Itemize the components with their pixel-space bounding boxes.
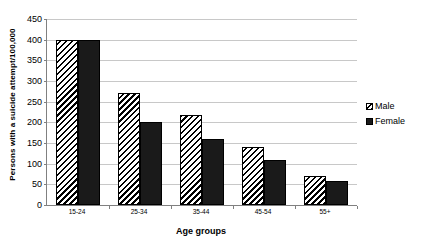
y-tick-label: 100 <box>16 159 42 168</box>
bar-male-15-24 <box>56 40 78 205</box>
bar-group <box>118 19 162 205</box>
y-tick-label: 200 <box>16 118 42 127</box>
solid-black-swatch-icon <box>366 118 373 125</box>
chart-legend: MaleFemale <box>366 101 428 131</box>
bar-female-35-44 <box>202 139 224 205</box>
bar-female-15-24 <box>78 40 100 205</box>
bar-female-45-54 <box>264 160 286 205</box>
bar-chart: Persons with a suicide attempt/100,000 0… <box>0 0 430 251</box>
x-tick-label: 55+ <box>319 208 330 216</box>
x-axis-tick-labels: 15-2425-3435-4445-5455+ <box>46 208 356 222</box>
x-axis-tick <box>357 206 358 209</box>
bars-layer <box>47 19 357 205</box>
x-tick-label: 35-44 <box>193 208 210 216</box>
x-tick-label: 15-24 <box>69 208 86 216</box>
y-axis-tick <box>44 205 47 206</box>
bar-male-55+ <box>304 176 326 205</box>
legend-item-female: Female <box>366 116 428 126</box>
y-tick-label: 50 <box>16 180 42 189</box>
legend-item-male: Male <box>366 101 428 111</box>
legend-label: Male <box>375 102 395 111</box>
y-tick-label: 0 <box>16 201 42 210</box>
y-axis-tick-labels: 050100150200250300350400450 <box>16 13 42 211</box>
bar-female-55+ <box>326 181 348 205</box>
hatched-swatch-icon <box>366 103 373 110</box>
y-tick-label: 250 <box>16 97 42 106</box>
y-tick-label: 400 <box>16 35 42 44</box>
bar-group <box>242 19 286 205</box>
legend-label: Female <box>375 117 405 126</box>
bar-male-45-54 <box>242 147 264 205</box>
y-tick-label: 150 <box>16 139 42 148</box>
bar-group <box>56 19 100 205</box>
y-tick-label: 300 <box>16 77 42 86</box>
x-axis-title: Age groups <box>46 226 356 236</box>
bar-male-25-34 <box>118 93 140 205</box>
bar-group <box>304 19 348 205</box>
bar-male-35-44 <box>180 115 202 205</box>
y-tick-label: 450 <box>16 15 42 24</box>
x-tick-label: 45-54 <box>255 208 272 216</box>
bar-female-25-34 <box>140 122 162 205</box>
y-tick-label: 350 <box>16 56 42 65</box>
x-tick-label: 25-34 <box>131 208 148 216</box>
plot-area <box>46 19 357 206</box>
bar-group <box>180 19 224 205</box>
